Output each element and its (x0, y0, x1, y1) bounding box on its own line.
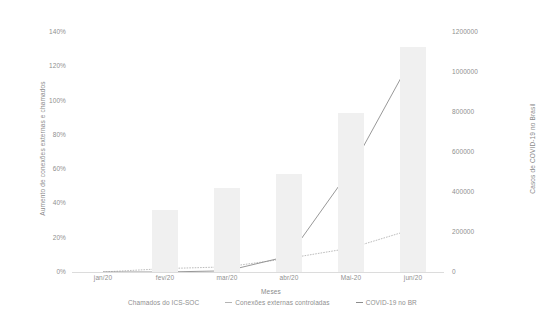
legend-label: Conexões externas controladas (235, 299, 329, 306)
right-tick-400000: 400000 (452, 188, 512, 195)
legend-line-swatch-icon (225, 302, 232, 303)
left-tick-40: 40% (26, 199, 66, 206)
right-tick-1200000: 1200000 (452, 28, 512, 35)
bar-fev-20 (152, 210, 178, 272)
line-series-layer (72, 32, 444, 272)
x-tick-abr-20: abr/20 (259, 274, 319, 281)
legend-line-swatch-icon (356, 302, 363, 303)
plot-area (72, 32, 444, 272)
x-axis-title: Meses (0, 288, 542, 295)
right-axis-title: Casos de COVID-19 no Brasil (529, 69, 536, 229)
left-tick-80: 80% (26, 131, 66, 138)
x-tick-jun-20: jun/20 (383, 274, 443, 281)
right-tick-600000: 600000 (452, 148, 512, 155)
right-tick-200000: 200000 (452, 228, 512, 235)
bar-jun-20 (400, 47, 426, 272)
legend-item-0[interactable]: Chamados do ICS-SOC (125, 299, 199, 306)
legend-label: Chamados do ICS-SOC (128, 299, 199, 306)
x-tick-mai-20: Mai-20 (321, 274, 381, 281)
x-tick-jan-20: jan/20 (73, 274, 133, 281)
bar-mai-20 (338, 113, 364, 272)
left-tick-140: 140% (26, 28, 66, 35)
left-tick-120: 120% (26, 62, 66, 69)
chart-legend: Chamados do ICS-SOCConexões externas con… (0, 299, 542, 306)
line-covid-19 (103, 56, 413, 272)
left-tick-60: 60% (26, 165, 66, 172)
right-tick-1000000: 1000000 (452, 68, 512, 75)
bar-mar-20 (214, 188, 240, 272)
legend-item-1[interactable]: Conexões externas controladas (225, 299, 329, 306)
x-tick-mar-20: mar/20 (197, 274, 257, 281)
x-axis-line (72, 272, 444, 273)
legend-item-2[interactable]: COVID-19 no BR (356, 299, 417, 306)
right-tick-800000: 800000 (452, 108, 512, 115)
x-tick-fev-20: fev/20 (135, 274, 195, 281)
left-tick-100: 100% (26, 97, 66, 104)
left-tick-0: 0% (26, 268, 66, 275)
legend-label: COVID-19 no BR (366, 299, 417, 306)
line-conexoes-externas (103, 229, 413, 272)
bar-abr-20 (276, 174, 302, 272)
chart-container: Aumento de conexões externas e chamados … (0, 0, 542, 316)
right-tick-0: 0 (452, 268, 512, 275)
left-tick-20: 20% (26, 234, 66, 241)
